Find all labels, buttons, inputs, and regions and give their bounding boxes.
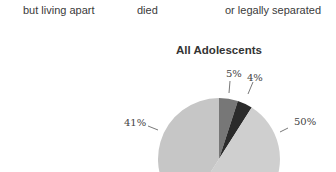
leader-line	[148, 126, 158, 130]
leader-line	[248, 82, 253, 94]
pie-slice-label: 50%	[294, 116, 316, 127]
pie-slice-label: 4%	[247, 72, 263, 83]
pie-slice-label: 41%	[124, 117, 146, 128]
pie-slices	[158, 98, 280, 172]
leader-line	[280, 128, 288, 132]
pie-slice	[158, 98, 219, 172]
leader-line	[229, 81, 230, 93]
pie-chart: 5%4%50%41%	[0, 0, 336, 172]
pie-slice-label: 5%	[226, 68, 242, 79]
